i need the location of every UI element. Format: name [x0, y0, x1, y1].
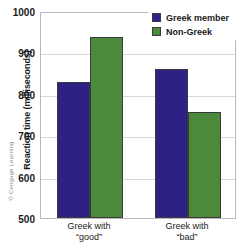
y-axis-tick-600: 600	[18, 172, 35, 183]
legend-label: Non-Greek	[166, 27, 212, 37]
x-axis-label-group-2: Greek with“bad”	[139, 221, 235, 243]
x-axis-label-line1: Greek with	[67, 221, 110, 231]
chart-legend: Greek memberNon-Greek	[148, 9, 236, 40]
legend-label: Greek member	[166, 13, 229, 23]
bar-chart-figure: © Cengage Learning Reaction time (millis…	[0, 0, 241, 244]
x-axis-category-labels: Greek with“good”Greek with“bad”	[40, 221, 236, 244]
x-axis-label-group-1: Greek with“good”	[41, 221, 137, 243]
bars-layer	[41, 13, 235, 218]
legend-swatch-icon	[152, 13, 161, 22]
legend-item-greek-member: Greek member	[152, 12, 233, 23]
bar-non-greek-group-2	[188, 112, 221, 218]
y-axis-tick-900: 900	[18, 48, 35, 59]
y-axis-tick-700: 700	[18, 131, 35, 142]
y-axis-tick-labels: 1000900800700600500	[0, 0, 39, 244]
x-axis-label-line2: “bad”	[139, 232, 235, 243]
bar-greek-member-group-1	[57, 82, 90, 218]
x-axis-label-line1: Greek with	[165, 221, 208, 231]
y-axis-tick-1000: 1000	[13, 7, 35, 18]
legend-swatch-icon	[152, 27, 161, 36]
bar-non-greek-group-1	[90, 37, 123, 218]
x-axis-label-line2: “good”	[41, 232, 137, 243]
y-axis-tick-800: 800	[18, 89, 35, 100]
y-axis-tick-500: 500	[18, 214, 35, 225]
legend-item-non-greek: Non-Greek	[152, 26, 233, 37]
plot-area	[40, 12, 236, 219]
bar-greek-member-group-2	[155, 69, 188, 218]
